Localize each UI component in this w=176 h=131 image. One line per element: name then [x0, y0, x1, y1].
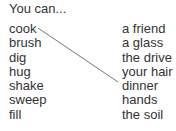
match-line — [0, 0, 176, 131]
